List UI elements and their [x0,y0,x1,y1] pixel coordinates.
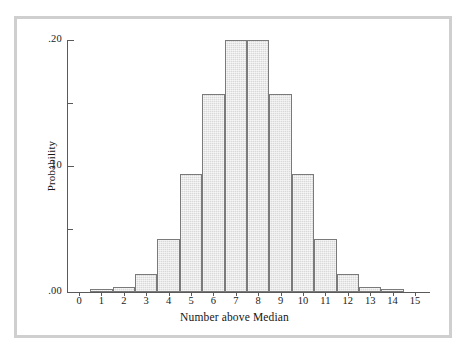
x-axis-tick-label: 8 [246,295,270,306]
histogram-bar [269,94,291,292]
x-axis-tick-label: 11 [313,295,337,306]
x-axis-tick-label: 4 [157,295,181,306]
histogram-bar [292,174,314,292]
figure-root: .00.10.20 0123456789101112131415 Number … [0,0,469,356]
x-axis-tick-label: 3 [134,295,158,306]
x-axis-title: Number above Median [0,311,469,323]
y-axis-tick-label: .00 [48,285,62,296]
x-axis-tick-label: 5 [179,295,203,306]
x-axis-tick-label: 9 [269,295,293,306]
y-axis-tick [68,40,74,41]
y-axis-tick [68,292,74,293]
x-axis-line [67,292,430,293]
histogram-bar [247,40,269,292]
x-axis-tick-label: 7 [224,295,248,306]
histogram-bar [157,239,179,292]
histogram-bar [337,274,359,292]
x-axis-tick-label: 12 [336,295,360,306]
histogram-plot-area: .00.10.20 0123456789101112131415 [0,0,469,356]
histogram-bar [180,174,202,292]
x-axis-tick-label: 0 [67,295,91,306]
y-axis-tick-label: .20 [48,33,62,44]
histogram-bar [314,239,336,292]
histogram-bar [225,40,247,292]
histogram-bar [135,274,157,292]
x-axis-tick-label: 13 [358,295,382,306]
y-axis-tick [68,166,74,167]
x-axis-tick-label: 2 [112,295,136,306]
y-axis-title: Probability [45,141,57,192]
histogram-bar [202,94,224,292]
x-axis-tick-label: 14 [381,295,405,306]
x-axis-tick-label: 1 [89,295,113,306]
x-axis-tick-label: 15 [403,295,427,306]
x-axis-tick-label: 6 [201,295,225,306]
y-axis-tick [68,103,73,104]
y-axis-tick [68,229,73,230]
x-axis-tick-label: 10 [291,295,315,306]
